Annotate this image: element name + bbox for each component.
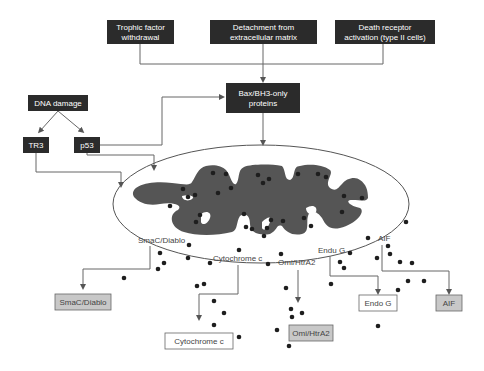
trigger-trophic-factor-box: Trophic factor withdrawal (107, 20, 174, 44)
mitochondrion-inner-membrane (133, 165, 368, 235)
tr3-box: TR3 (23, 137, 49, 153)
bax-line1: Bax/BH3-only (239, 89, 288, 98)
released-endog-box: Endo G (359, 295, 397, 311)
dna-damage-label: DNA damage (34, 99, 82, 108)
trigger-trophic-line1: Trophic factor (116, 23, 165, 32)
trigger-connectors (140, 44, 383, 80)
tr3-label: TR3 (28, 141, 44, 150)
trigger-detachment-line2: extracellular matrix (230, 33, 297, 42)
p53-box: p53 (74, 137, 100, 153)
mito-label-cytochrome: Cytochrome c (213, 254, 262, 263)
released-smac-label: SmaC/Diablo (59, 298, 107, 307)
trigger-death-receptor-box: Death receptor activation (type II cells… (335, 20, 435, 44)
released-omi-box: Omi/HtrA2 (289, 325, 333, 341)
mito-label-omi: Omi/HtrA2 (278, 258, 316, 267)
dna-damage-box: DNA damage (28, 95, 88, 111)
dna-to-tr3-arrow (40, 111, 58, 131)
mito-label-aif: AIF (378, 234, 391, 243)
trigger-detachment-line1: Detachment from (233, 23, 295, 32)
bax-bh3-box: Bax/BH3-only proteins (226, 83, 300, 113)
released-aif-box: AIF (436, 295, 462, 311)
mito-label-endog: Endu G (318, 246, 345, 255)
released-endog-label: Endo G (364, 299, 391, 308)
trigger-trophic-line2: withdrawal (121, 33, 160, 42)
released-cytochrome-label: Cytochrome c (174, 337, 223, 346)
released-aif-label: AIF (443, 299, 456, 308)
released-smac-box: SmaC/Diablo (55, 294, 111, 310)
apoptosis-pathway-diagram: Trophic factor withdrawal Detachment fro… (0, 0, 484, 371)
trigger-death-receptor-line1: Death receptor (359, 23, 412, 32)
released-cytochrome-box: Cytochrome c (165, 333, 233, 349)
trigger-death-receptor-line2: activation (type II cells) (344, 33, 426, 42)
p53-label: p53 (80, 141, 94, 150)
dna-to-p53-arrow (58, 111, 82, 131)
trigger-detachment-box: Detachment from extracellular matrix (210, 20, 317, 44)
bax-line2: proteins (249, 99, 277, 108)
mito-label-smac: SmaC/Diablo (138, 236, 186, 245)
released-omi-label: Omi/HtrA2 (292, 329, 330, 338)
